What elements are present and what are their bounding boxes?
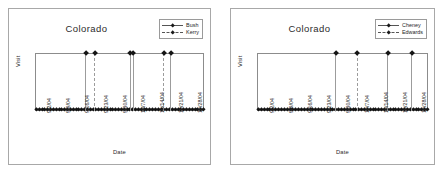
data-spike-solid — [130, 53, 131, 111]
x-tick-label: 10/28/04 — [197, 92, 203, 113]
legend-key-dashed-icon — [378, 29, 399, 36]
x-axis-ticks-right: 9/2/049/9/049/16/049/23/049/30/0410/7/04… — [257, 113, 428, 147]
x-axis-ticks-left: 9/2/049/9/049/16/049/23/049/30/0410/7/04… — [35, 113, 204, 147]
data-spike-dashed — [94, 53, 95, 111]
data-point-marker — [355, 50, 361, 56]
x-tick-label: 9/9/04 — [288, 98, 294, 113]
x-tick-label: 9/30/04 — [345, 95, 351, 113]
legend-right: Cheney Edwards — [375, 19, 427, 39]
data-spike-dashed — [357, 53, 358, 111]
x-tick-label: 9/16/04 — [84, 95, 90, 113]
data-spike-solid — [133, 53, 134, 111]
x-tick-label: 9/23/04 — [326, 95, 332, 113]
legend-label-kerry: Kerry — [186, 29, 199, 37]
legend-key-solid-icon — [162, 22, 183, 29]
data-spike-solid — [411, 53, 412, 111]
data-point-marker — [385, 50, 391, 56]
x-tick-label: 10/21/04 — [178, 92, 184, 113]
x-axis-label-right: Date — [257, 149, 428, 155]
data-point-marker — [131, 50, 137, 56]
x-tick-label: 9/2/04 — [46, 98, 52, 113]
x-tick-label: 10/7/04 — [364, 95, 370, 113]
legend-item-edwards[interactable]: Edwards — [378, 29, 423, 36]
data-point-marker — [161, 50, 167, 56]
data-point-marker — [409, 50, 415, 56]
x-tick-label: 10/28/04 — [421, 92, 427, 113]
data-spike-solid — [335, 53, 336, 111]
chart-panel-right: Colorado Cheney Edwards Visit 9/2/049/9/… — [230, 8, 435, 165]
x-tick-label: 9/23/04 — [103, 95, 109, 113]
legend-item-kerry[interactable]: Kerry — [162, 29, 199, 36]
y-axis-label: Visit — [15, 56, 21, 67]
legend-label-edwards: Edwards — [402, 29, 423, 37]
chart-panel-left: Colorado Bush Kerry Visit 9/2/049/9/049/… — [8, 8, 211, 165]
x-axis-label: Date — [35, 149, 204, 155]
x-tick-label: 9/2/04 — [269, 98, 275, 113]
legend-key-solid-icon — [378, 22, 399, 29]
legend-left: Bush Kerry — [159, 19, 203, 39]
x-tick-label: 10/14/04 — [383, 92, 389, 113]
y-axis-label-right: Visit — [237, 56, 243, 67]
x-tick-label: 10/7/04 — [140, 95, 146, 113]
data-point-marker — [168, 50, 174, 56]
x-tick-label: 10/14/04 — [159, 92, 165, 113]
x-tick-label: 9/30/04 — [122, 95, 128, 113]
figure-container: Colorado Bush Kerry Visit 9/2/049/9/049/… — [0, 0, 443, 173]
data-point-marker — [333, 50, 339, 56]
x-tick-label: 9/9/04 — [65, 98, 71, 113]
legend-key-dashed-icon — [162, 29, 183, 36]
data-point-marker — [83, 50, 89, 56]
x-tick-label: 10/21/04 — [402, 92, 408, 113]
data-spike-solid — [170, 53, 171, 111]
x-tick-label: 9/16/04 — [307, 95, 313, 113]
data-point-marker — [92, 50, 98, 56]
